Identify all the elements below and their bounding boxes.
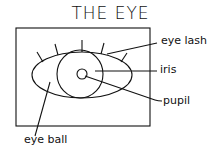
label-iris: iris (160, 63, 176, 76)
eyelashes (37, 40, 127, 62)
label-eyelash: eye lash (161, 34, 207, 47)
label-pupil: pupil (163, 94, 190, 107)
eyeball-leader (35, 82, 50, 136)
iris-shape (57, 50, 103, 98)
pupil-shape (77, 69, 87, 79)
label-eyeball: eye ball (24, 133, 67, 146)
diagram-frame (16, 28, 150, 126)
